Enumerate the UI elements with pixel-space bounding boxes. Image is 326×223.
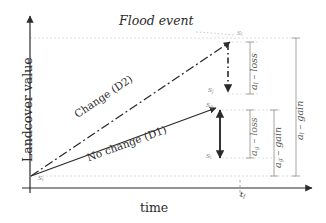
bracket-label-a-g-gain: ag – gain <box>272 127 283 168</box>
state-label-s-l-top: sl <box>237 28 243 37</box>
bracket-label-a-g-loss: ag – loss <box>248 117 259 156</box>
figure-canvas: Flood event Landcover value time tf Chan… <box>0 0 326 223</box>
flood-event-label: Flood event <box>119 13 194 28</box>
state-label-s-g-upper: sg <box>206 100 213 109</box>
trajectory-change <box>31 42 230 176</box>
bracket-label-a-l-loss: al – loss <box>248 53 259 90</box>
x-tick-label-tf: tf <box>240 190 245 199</box>
state-label-s-j-mid: sj <box>208 85 214 94</box>
state-label-s-i-lower: si <box>206 151 212 160</box>
y-axis-label: Landcover value <box>20 57 35 162</box>
flood-event-leader <box>196 32 234 35</box>
state-label-s-initial: si <box>38 173 44 182</box>
diagram-vector <box>0 0 326 223</box>
x-axis-label: time <box>140 200 168 215</box>
bracket-label-a-l-gain: al – gain <box>294 101 305 140</box>
